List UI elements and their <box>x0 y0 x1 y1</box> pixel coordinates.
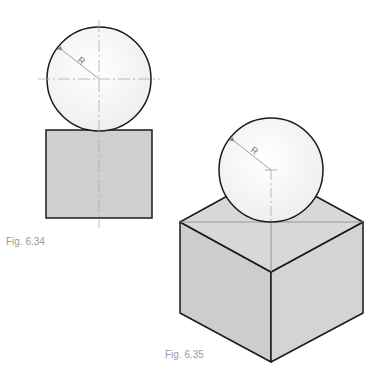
caption-fig-6-35: Fig. 6.35 <box>165 349 204 360</box>
figure-6-35: R <box>180 118 363 362</box>
figure-6-34: R <box>38 20 160 228</box>
caption-fig-6-34: Fig. 6.34 <box>6 236 45 247</box>
diagram-canvas: R R <box>0 0 380 382</box>
